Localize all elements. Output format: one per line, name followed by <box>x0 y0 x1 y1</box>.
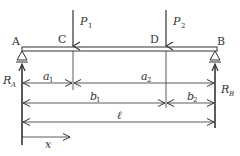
reaction-b-arrow <box>212 64 218 128</box>
label-point-a: A <box>11 35 21 48</box>
label-b1: b 1 <box>90 90 100 104</box>
svg-text:2: 2 <box>193 96 197 104</box>
svg-text:P: P <box>79 15 88 28</box>
label-point-d: D <box>150 33 159 46</box>
label-a1: a 1 <box>43 70 53 84</box>
label-a2: a 2 <box>141 70 151 84</box>
svg-text:R: R <box>2 74 11 87</box>
svg-text:1: 1 <box>96 96 100 104</box>
svg-text:1: 1 <box>88 22 92 30</box>
beam-diagram: A B C D P 1 P 2 R A R B a 1 a 2 b 1 b 2 … <box>0 0 240 156</box>
label-p1: P 1 <box>79 15 92 30</box>
label-p2: P 2 <box>172 15 185 30</box>
svg-text:A: A <box>10 81 16 89</box>
support-a-icon <box>16 51 28 62</box>
beam <box>22 47 217 51</box>
support-b-icon <box>209 51 221 62</box>
label-rb: R B <box>220 83 234 98</box>
svg-text:2: 2 <box>181 22 185 30</box>
svg-text:P: P <box>172 15 181 28</box>
label-ra: R A <box>2 74 16 89</box>
svg-text:1: 1 <box>49 76 53 84</box>
label-l: ℓ <box>117 109 122 122</box>
label-point-c: C <box>58 33 66 46</box>
label-point-b: B <box>217 35 225 48</box>
reaction-a-arrow <box>19 64 25 145</box>
label-x: x <box>45 138 52 151</box>
svg-text:2: 2 <box>147 76 151 84</box>
svg-text:B: B <box>228 90 234 98</box>
svg-text:R: R <box>220 83 229 96</box>
label-b2: b 2 <box>187 90 197 104</box>
